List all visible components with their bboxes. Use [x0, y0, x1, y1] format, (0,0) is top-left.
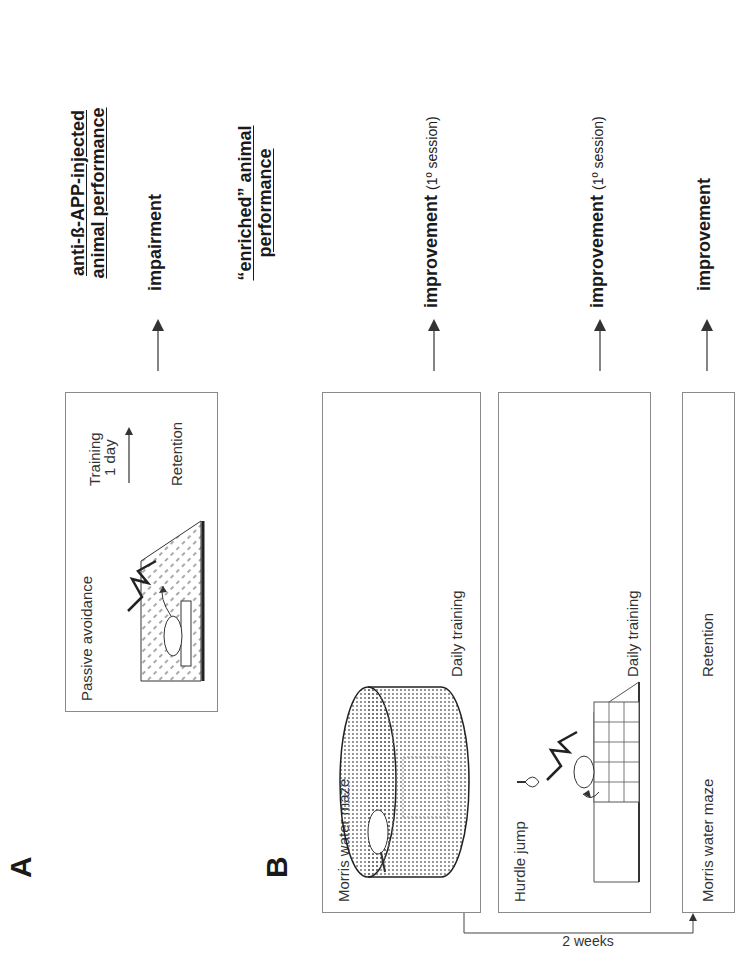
two-weeks-label: 2 weeks [562, 933, 613, 949]
morris-water-maze-retention-box: Morris water maze Retention [682, 392, 735, 913]
row2-result: improvement (1º session) [587, 116, 608, 308]
row3-result-arrow [697, 311, 717, 371]
retention-label: Retention [168, 422, 185, 486]
row3-result: improvement [694, 178, 715, 291]
panel-b-label: B [260, 856, 294, 878]
panel-b-header-line2: performance [255, 93, 275, 313]
panel-a-label: A [4, 856, 38, 878]
row1-result: improvement (1º session) [421, 116, 442, 308]
panel-a-header: anti-ß-APP-injected animal performance [68, 73, 108, 313]
hurdle-jump-note: Daily training [624, 590, 641, 677]
panel-a-header-line2: animal performance [88, 73, 108, 313]
panel-a-header-line1: anti-ß-APP-injected [68, 73, 88, 313]
hurdle-jump-box: Hurdle jump Daily training [498, 392, 651, 913]
row2-result-arrow [590, 311, 610, 371]
one-day-arrow [121, 443, 141, 483]
row1-result-text: improvement [421, 195, 441, 308]
morris-retention-title: Morris water maze [699, 779, 716, 902]
row1-result-suffix: (1º session) [424, 116, 440, 190]
row2-result-text: improvement [587, 195, 607, 308]
morris-water-maze-training-box: Morris water maze Daily training [322, 392, 481, 913]
morris-training-note: Daily training [448, 590, 465, 677]
figure-canvas: A anti-ß-APP-injected animal performance… [0, 0, 750, 953]
panel-a-result: impairment [145, 194, 166, 291]
panel-b-header: “enriched” animal performance [235, 93, 275, 313]
panel-a-result-arrow [148, 311, 168, 371]
panel-b-header-line1: “enriched” animal [235, 93, 255, 313]
row1-result-arrow [424, 311, 444, 371]
morris-retention-note: Retention [699, 613, 716, 677]
one-day-label: 1 day [101, 439, 118, 476]
passive-avoidance-box: Passive avoidance Training 1 day Retenti… [65, 392, 218, 712]
row2-result-suffix: (1º session) [590, 116, 606, 190]
